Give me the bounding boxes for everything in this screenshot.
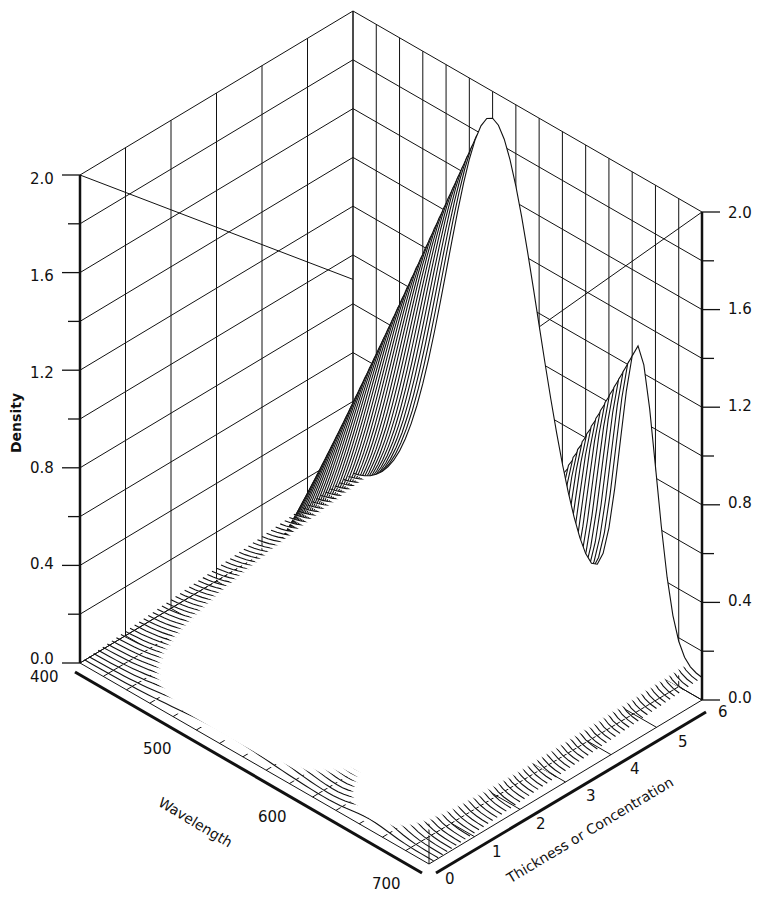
z-tick-right-0.8: 0.8: [728, 494, 752, 512]
z-tick-left-1.2: 1.2: [30, 364, 54, 382]
y-tick-1: 1: [492, 843, 502, 861]
x-tick-700: 700: [372, 875, 401, 893]
grid-line: [353, 60, 702, 261]
chart-3d-surface: 2.0 1.6 1.2 0.8 0.4 0.0 2.0 1.6 1.2 0.8 …: [0, 0, 760, 901]
y-tick-3: 3: [586, 787, 596, 805]
y-tick-4: 4: [630, 760, 640, 778]
y-tick-5: 5: [678, 733, 688, 751]
x-tick-500: 500: [143, 740, 172, 758]
z-tick-left-1.6: 1.6: [30, 267, 54, 285]
z-tick-right-1.2: 1.2: [728, 397, 752, 415]
z-tick-left-0.4: 0.4: [30, 555, 54, 573]
z-tick-left-2.0: 2.0: [30, 170, 54, 188]
z-tick-right-1.6: 1.6: [728, 300, 752, 318]
y-tick-6: 6: [718, 703, 728, 721]
y-tick-2: 2: [536, 815, 546, 833]
z-tick-right-0.0: 0.0: [728, 689, 752, 707]
z-axis-title: Density: [8, 393, 24, 453]
x-tick-600: 600: [258, 808, 287, 826]
z-tick-right-2.0: 2.0: [728, 204, 752, 222]
grid-line: [353, 11, 702, 212]
z-tick-left-0.8: 0.8: [30, 459, 54, 477]
y-tick-0: 0: [445, 870, 455, 888]
z-tick-left-0.0: 0.0: [30, 650, 54, 668]
plot-area: [0, 0, 760, 901]
x-tick-400: 400: [30, 668, 59, 686]
z-tick-right-0.4: 0.4: [728, 592, 752, 610]
